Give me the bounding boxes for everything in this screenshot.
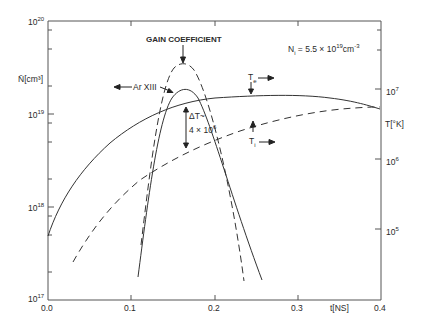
te-label: Te [248, 73, 257, 84]
chart-canvas [0, 0, 426, 329]
y-right-tick-6: 106 [386, 156, 399, 167]
arxiii-label: Ar XIII [133, 83, 157, 92]
y-left-title: N̄[cm³] [18, 75, 43, 84]
x-tick-3: 0.3 [291, 304, 303, 313]
y-right-tick-7: 107 [386, 86, 399, 97]
x-tick-4: 0.4 [374, 304, 386, 313]
gain-coefficient-label: GAIN COEFFICIENT [146, 36, 222, 44]
x-tick-2: 0.2 [208, 304, 220, 313]
y-left-tick-18: 1018 [28, 202, 44, 213]
y-left-tick-19: 1019 [28, 109, 44, 120]
ni-label: Ni = 5.5 × 1019cm-3 [288, 43, 360, 56]
x-tick-0: 0.0 [41, 304, 53, 313]
gain-curve [141, 64, 244, 281]
y-left-tick-17: 1017 [28, 293, 44, 304]
delta-t-label: ΔT~ [189, 112, 205, 121]
x-title: t[NS] [330, 304, 349, 313]
x-tick-1: 0.1 [124, 304, 136, 313]
ti-label: Ti [249, 137, 256, 148]
y-right-title: T[°K] [385, 120, 404, 129]
y-left-tick-20: 1020 [28, 16, 44, 27]
y-right-tick-5: 105 [386, 226, 399, 237]
ti-curve [73, 107, 380, 262]
delta-t-value: 4 × 106 [189, 124, 216, 134]
te-curve [48, 95, 380, 236]
